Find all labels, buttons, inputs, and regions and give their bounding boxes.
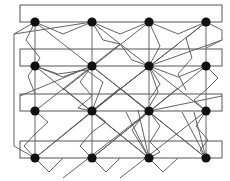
node-n-r2c4[interactable] bbox=[201, 61, 210, 70]
node-n-r4c4[interactable] bbox=[201, 153, 210, 162]
node-n-r2c1[interactable] bbox=[30, 61, 39, 70]
node-n-r4c3[interactable] bbox=[144, 153, 153, 162]
network-diagram-figure bbox=[0, 0, 230, 181]
node-n-r2c3[interactable] bbox=[144, 61, 153, 70]
node-n-r3c2[interactable] bbox=[87, 106, 96, 115]
node-n-r3c1[interactable] bbox=[30, 106, 39, 115]
diagram-canvas bbox=[0, 0, 230, 181]
node-n-r1c2[interactable] bbox=[87, 17, 96, 26]
node-n-r3c3[interactable] bbox=[144, 106, 153, 115]
node-n-r4c2[interactable] bbox=[87, 153, 96, 162]
node-n-r3c4[interactable] bbox=[201, 106, 210, 115]
node-n-r1c1[interactable] bbox=[30, 17, 39, 26]
node-n-r2c2[interactable] bbox=[87, 61, 96, 70]
node-n-r1c3[interactable] bbox=[144, 17, 153, 26]
node-n-r4c1[interactable] bbox=[30, 153, 39, 162]
node-n-r1c4[interactable] bbox=[201, 17, 210, 26]
